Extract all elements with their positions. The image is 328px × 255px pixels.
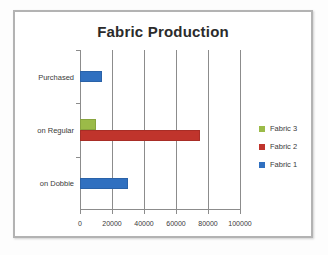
legend-item[interactable]: Fabric 1 [259,160,319,169]
chart-frame: Fabric Production 0200004000060000800001… [13,10,313,238]
x-axis-tick-label: 0 [78,220,82,227]
legend-swatch-icon [259,162,265,168]
legend-item[interactable]: Fabric 3 [259,124,319,133]
chart-title: Fabric Production [15,23,311,40]
chart-legend: Fabric 3Fabric 2Fabric 1 [259,124,319,178]
x-axis-tick [144,210,145,214]
gridline [240,50,241,210]
legend-label: Fabric 2 [270,142,297,151]
legend-label: Fabric 1 [270,160,297,169]
category-label: Purchased [38,72,74,81]
bar [80,71,102,82]
scanned-page: Fabric Production 0200004000060000800001… [0,0,328,255]
x-axis-tick-label: 40000 [134,220,153,227]
legend-item[interactable]: Fabric 2 [259,142,319,151]
plot-area: 020000400006000080000100000 on Dobbieon … [80,50,240,210]
x-axis-tick-label: 20000 [102,220,121,227]
legend-swatch-icon [259,144,265,150]
x-axis-tick [80,210,81,214]
category-label: on Dobbie [40,179,74,188]
x-axis-tick [176,210,177,214]
x-axis-tick-label: 100000 [228,220,251,227]
y-axis-tick [76,157,80,158]
x-axis-tick-label: 80000 [198,220,217,227]
y-axis-tick [76,103,80,104]
category-label: on Regular [37,126,74,135]
x-axis-line [80,209,240,210]
y-axis-tick [76,50,80,51]
x-axis-tick [208,210,209,214]
bar [80,130,200,141]
x-axis-tick [112,210,113,214]
legend-label: Fabric 3 [270,124,297,133]
gridline [208,50,209,210]
bar [80,178,128,189]
legend-swatch-icon [259,126,265,132]
x-axis-tick-label: 60000 [166,220,185,227]
bar [80,119,96,130]
x-axis-tick [240,210,241,214]
